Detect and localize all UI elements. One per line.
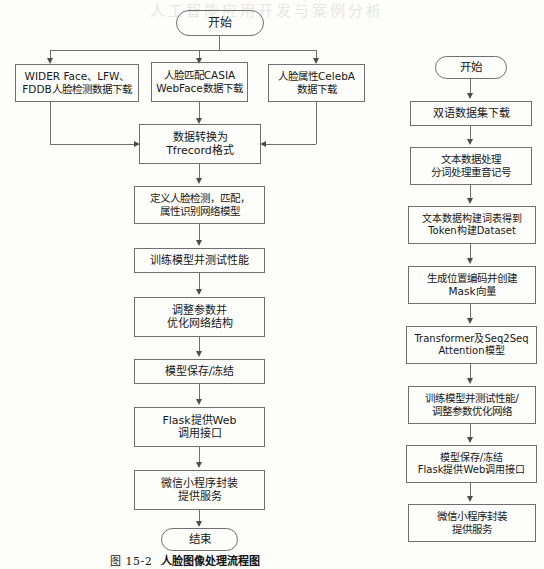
figure-caption-left-number: 图 15-2: [110, 555, 152, 568]
arrowhead-train-to-tune: [196, 289, 202, 295]
node-start-mt: 开始: [435, 56, 507, 79]
node-tune-and-optimize: 调整参数并 优化网络结构: [134, 297, 265, 337]
arrowhead-posmask-to-transformer: [467, 318, 473, 324]
node-text-preprocessing: 文本数据处理 分词处理重音记号: [410, 147, 532, 185]
node-flask-web-api: Flask提供Web 调用接口: [134, 407, 265, 447]
node-train-and-test: 训练模型并测试性能: [134, 248, 265, 273]
node-transformer-seq2seq-model: Transformer及Seq2Seq Attention模型: [406, 326, 537, 364]
arrowhead-wechat-to-end: [196, 521, 202, 527]
connector-detect-across: [50, 144, 140, 145]
arrowhead-tune-to-save: [196, 351, 202, 357]
node-dataset-face-matching: 人脸匹配CASIA WebFace数据下载: [151, 62, 248, 102]
arrowhead-define-to-train: [196, 240, 202, 246]
node-train-test-tune: 训练模型并测试性能/ 调整参数优化网络: [408, 386, 536, 424]
node-dataset-face-detection: WIDER Face、LFW、 FDDB人脸检测数据下载: [15, 64, 139, 102]
arrowhead-save-to-flask: [196, 399, 202, 405]
arrowhead-textprocess-to-vocab: [467, 198, 473, 204]
connector-attr-across: [266, 144, 316, 145]
arrowhead-vocab-to-posmask: [467, 258, 473, 264]
node-bilingual-dataset-download: 双语数据集下载: [410, 101, 532, 126]
node-build-vocab-dataset: 文本数据构建词表得到 Token构建Dataset: [408, 206, 536, 244]
scanned-book-page: 人工智能应用开发与案例分析 开始 WIDER Face、LFW、 FDDB人脸检…: [0, 0, 544, 569]
node-dataset-face-attribute: 人脸属性CelebA 数据下载: [268, 64, 365, 102]
node-save-freeze-flask-api: 模型保存/冻结 Flask提供Web调用接口: [406, 445, 537, 483]
arrowhead-start-to-bilingual: [467, 93, 473, 99]
figure-caption-left: 图 15-2人脸图像处理流程图: [110, 552, 260, 568]
arrowhead-flask-to-wechat: [196, 462, 202, 468]
node-convert-to-tfrecord: 数据转换为 Tfrecord格式: [139, 124, 261, 164]
arrowhead-convert-to-define: [196, 178, 202, 184]
node-wechat-miniprogram-service-mt: 微信小程序封装 提供服务: [408, 504, 536, 542]
node-start: 开始: [176, 10, 264, 36]
node-wechat-miniprogram-service: 微信小程序封装 提供服务: [134, 470, 265, 510]
connector-detect-down: [50, 102, 51, 144]
arrowhead-train-to-saveflask: [467, 437, 473, 443]
connector-attr-down: [316, 102, 317, 144]
arrowhead-bilingual-to-textprocess: [467, 139, 473, 145]
figure-caption-left-title: 人脸图像处理流程图: [161, 555, 260, 568]
node-positional-encoding-mask: 生成位置编码并创建 Mask向量: [408, 266, 536, 304]
node-define-network: 定义人脸检测，匹配， 属性识别网络模型: [134, 186, 265, 224]
arrowhead-transformer-to-train: [467, 378, 473, 384]
node-end: 结束: [161, 528, 238, 551]
node-save-freeze-model: 模型保存/冻结: [134, 359, 265, 384]
connector-fanout-bus: [50, 50, 316, 51]
arrowhead-saveflask-to-wechat: [467, 496, 473, 502]
connector-start-stem: [219, 36, 220, 50]
